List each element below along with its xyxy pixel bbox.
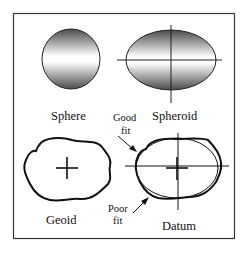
geoid-label: Geoid bbox=[46, 213, 77, 227]
spheroid-label: Spheroid bbox=[152, 109, 198, 123]
spheroid-shape bbox=[117, 25, 222, 103]
good-fit-label-line2: fit bbox=[121, 125, 130, 136]
good-fit-label-line1: Good bbox=[113, 112, 137, 123]
earth-models-diagram: Sphere Spheroid Good fit Geoid Datum Poo… bbox=[0, 0, 245, 255]
sphere-label: Sphere bbox=[51, 109, 86, 123]
datum-label: Datum bbox=[162, 219, 196, 233]
good-fit-arrow bbox=[118, 136, 137, 152]
poor-fit-label-line2: fit bbox=[113, 215, 122, 226]
datum-shape bbox=[125, 133, 229, 210]
poor-fit-arrow bbox=[133, 197, 149, 213]
poor-fit-label-line1: Poor bbox=[108, 203, 128, 214]
sphere-shape bbox=[42, 29, 100, 89]
geoid-shape bbox=[24, 138, 110, 201]
